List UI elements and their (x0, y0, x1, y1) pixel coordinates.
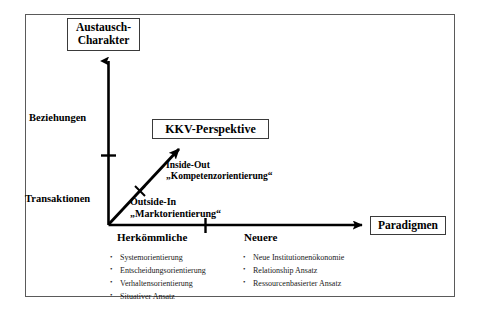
y-axis-title-line2: Charakter (78, 34, 130, 46)
list-item: Neue Institutionenökonomie (243, 252, 344, 265)
y-axis-title-box: Austausch- Charakter (67, 18, 140, 51)
list-item: Situativer Ansatz (110, 291, 206, 304)
y-axis-title-line1: Austausch- (76, 21, 131, 33)
list-item: Relationship Ansatz (243, 265, 344, 278)
inside-out-quote: „Kompetenzorientierung“ (166, 171, 273, 182)
list-item: Ressourcenbasierter Ansatz (243, 278, 344, 291)
inside-out-term: Inside-Out (166, 160, 273, 171)
traditional-approaches-list: Systemorientierung Entscheidungsorientie… (110, 252, 206, 304)
outside-in-term: Outside-In (130, 196, 221, 208)
outside-in-quote: „Marktorientierung“ (130, 208, 221, 220)
diagram-figure: Austausch- Charakter KKV-Perspektive Par… (0, 0, 481, 315)
list-item: Verhaltensorientierung (110, 278, 206, 291)
outside-in-caption: Outside-In „Marktorientierung“ (130, 196, 221, 220)
modern-approaches-list: Neue Institutionenökonomie Relationship … (243, 252, 344, 291)
list-item: Systemorientierung (110, 252, 206, 265)
x-cross-marker (135, 186, 145, 196)
y-axis-lower-label: Transaktionen (25, 193, 90, 204)
x-axis-left-label: Herkömmliche (117, 231, 187, 243)
kkv-perspective-box: KKV-Perspektive (152, 119, 269, 139)
x-axis-title-box: Paradigmen (370, 216, 446, 235)
x-axis-right-label: Neuere (244, 231, 277, 243)
inside-out-caption: Inside-Out „Kompetenzorientierung“ (166, 160, 273, 183)
list-item: Entscheidungsorientierung (110, 265, 206, 278)
y-axis-upper-label: Beziehungen (29, 112, 86, 123)
